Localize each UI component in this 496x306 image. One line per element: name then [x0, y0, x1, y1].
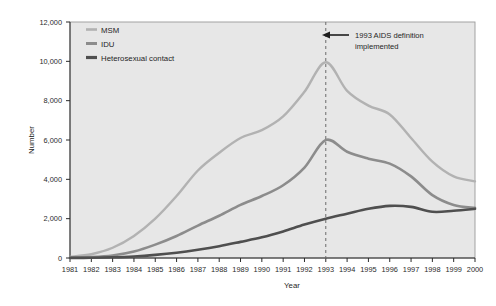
y-tick-label: 6,000 [44, 136, 63, 145]
annotation-text-line-2: implemented [355, 42, 398, 51]
x-tick-label: 1988 [211, 265, 227, 274]
y-tick-label: 0 [58, 254, 62, 263]
y-tick-label: 12,000 [39, 18, 62, 27]
x-tick-label: 1982 [83, 265, 99, 274]
line-chart: 02,0004,0006,0008,00010,00012,000 198119… [0, 0, 496, 306]
x-tick-label: 1993 [318, 265, 334, 274]
x-tick-label: 1995 [360, 265, 376, 274]
legend-label-idu: IDU [101, 40, 115, 49]
x-tick-label: 1994 [339, 265, 355, 274]
x-tick-label: 1989 [232, 265, 248, 274]
y-tick-label: 10,000 [39, 57, 62, 66]
x-tick-label: 1991 [275, 265, 291, 274]
legend-label-heterosexual: Heterosexual contact [101, 54, 175, 63]
x-tick-label: 1986 [168, 265, 184, 274]
x-tick-label: 1997 [403, 265, 419, 274]
x-tick-label: 1996 [382, 265, 398, 274]
y-tick-label: 8,000 [44, 96, 63, 105]
x-tick-label: 1983 [104, 265, 120, 274]
x-tick-label: 1985 [147, 265, 163, 274]
x-tick-label: 1984 [126, 265, 142, 274]
y-tick-label: 4,000 [44, 175, 63, 184]
y-tick-label: 2,000 [44, 214, 63, 223]
x-tick-label: 1981 [62, 265, 78, 274]
y-axis-title: Number [27, 126, 36, 154]
x-tick-label: 1987 [190, 265, 206, 274]
x-tick-label: 2000 [467, 265, 483, 274]
annotation-text-line-1: 1993 AIDS definition [355, 31, 424, 40]
x-tick-label: 1999 [445, 265, 461, 274]
x-tick-label: 1992 [296, 265, 312, 274]
x-tick-label: 1998 [424, 265, 440, 274]
legend-label-msm: MSM [101, 26, 119, 35]
x-axis-title: Year [284, 281, 300, 290]
figure-container: 02,0004,0006,0008,00010,00012,000 198119… [0, 0, 496, 306]
x-tick-label: 1990 [254, 265, 270, 274]
